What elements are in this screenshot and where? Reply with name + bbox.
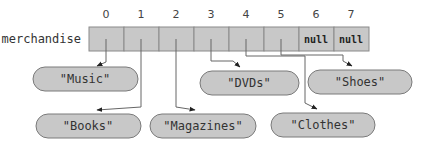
string-value-music: "Music" [60,72,111,86]
string-value-books: "Books" [63,119,114,133]
index-label-6: 6 [313,8,320,21]
index-label-1: 1 [138,8,145,21]
array-name-label: merchandise [2,32,81,46]
index-label-5: 5 [278,8,285,21]
string-value-shoes: "Shoes" [335,75,386,89]
index-label-0: 0 [103,8,110,21]
string-value-clothes: "Clothes" [290,118,355,132]
index-label-7: 7 [348,8,355,21]
array-reference-diagram: merchandise 0 1 2 3 4 5 6 7 null null [0,0,429,146]
null-value-7: null [339,34,363,45]
string-value-magazines: "Magazines" [163,119,242,133]
index-label-3: 3 [208,8,215,21]
index-label-4: 4 [243,8,250,21]
index-label-2: 2 [173,8,180,21]
string-value-dvds: "DVDs" [227,76,270,90]
null-value-6: null [304,34,328,45]
